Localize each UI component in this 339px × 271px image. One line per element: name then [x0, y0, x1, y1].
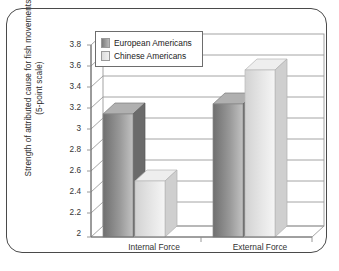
legend-item-european-americans: European Americans: [101, 36, 197, 49]
bar-external-chinese-americans: [245, 59, 287, 237]
chart-legend: European Americans Chinese Americans: [95, 31, 203, 67]
legend-label: European Americans: [114, 38, 192, 48]
legend-item-chinese-americans: Chinese Americans: [101, 49, 197, 62]
legend-swatch-icon: [101, 38, 110, 48]
bar-internal-chinese-americans: [135, 170, 177, 237]
legend-swatch-icon: [101, 51, 110, 61]
legend-label: Chinese Americans: [114, 51, 186, 61]
plot-area: 3.8 3.6 3.4 3.2 3 2.8 2.6 2.4 2.2 2: [7, 9, 328, 254]
x-tick-label-internal-force: Internal Force: [99, 242, 209, 252]
x-tick-label-external-force: External Force: [205, 242, 315, 252]
chart-frame: Strength of attributed cause for fish mo…: [6, 8, 327, 253]
y-axis-ticks: [87, 45, 91, 237]
